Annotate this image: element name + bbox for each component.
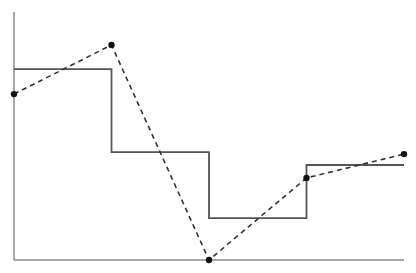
step-line	[14, 69, 404, 218]
data-point-marker	[108, 42, 114, 48]
data-point-marker	[206, 257, 212, 263]
chart	[0, 0, 416, 273]
axes	[14, 12, 404, 260]
step-line-series	[14, 69, 404, 218]
data-point-marker	[401, 151, 407, 157]
data-point-marker	[11, 91, 17, 97]
data-point-marker	[303, 175, 309, 181]
